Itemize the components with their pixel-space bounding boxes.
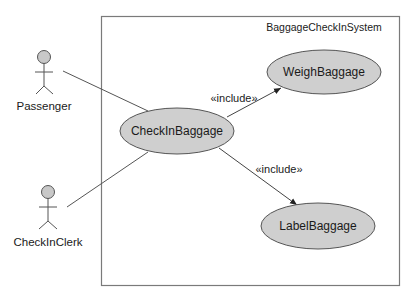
actor-passenger[interactable]: Passenger	[17, 51, 72, 113]
actor-checkin-clerk[interactable]: CheckInClerk	[13, 186, 82, 249]
association-passenger-checkin[interactable]	[63, 71, 148, 111]
use-case-label: WeighBaggage	[283, 65, 365, 79]
stick-figure-icon	[35, 51, 53, 95]
actor-label: Passenger	[17, 100, 72, 112]
use-case-label: CheckInBaggage	[131, 124, 223, 138]
use-case-checkin-baggage[interactable]: CheckInBaggage	[120, 108, 234, 154]
actor-label: CheckInClerk	[13, 236, 82, 248]
use-case-diagram: BaggageCheckInSystem «include» «include»…	[0, 0, 415, 303]
stick-figure-icon	[39, 186, 57, 230]
include-label-weigh: «include»	[210, 92, 257, 104]
include-arrow-label[interactable]	[219, 148, 297, 205]
system-name: BaggageCheckInSystem	[266, 21, 382, 33]
use-case-label: LabelBaggage	[279, 219, 357, 233]
use-case-weigh-baggage[interactable]: WeighBaggage	[267, 50, 381, 94]
use-case-label-baggage[interactable]: LabelBaggage	[261, 203, 375, 249]
association-clerk-checkin[interactable]	[67, 152, 148, 207]
include-label-label: «include»	[255, 163, 302, 175]
